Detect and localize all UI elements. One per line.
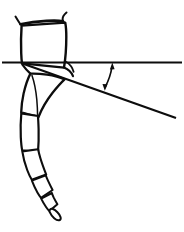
tarsomere-1 bbox=[21, 113, 39, 152]
figure-root bbox=[0, 0, 184, 232]
leg-angle-diagram bbox=[0, 0, 184, 232]
femur-segment bbox=[21, 23, 66, 68]
